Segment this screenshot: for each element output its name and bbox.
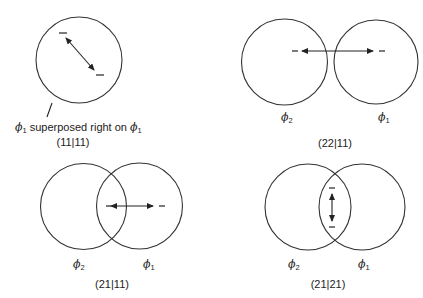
phi2-label: ϕ2 (288, 258, 300, 272)
notation-label: (22|11) (318, 137, 352, 149)
notation-label: (21|11) (95, 278, 129, 290)
orbital-overlap-diagram: ϕ1 superposed right on ϕ1 (11|11) ϕ2 ϕ1 … (0, 0, 423, 298)
notation-label: (11|11) (56, 136, 89, 148)
panel-21-21: ϕ2 ϕ1 (21|21) (265, 164, 405, 290)
notation-label: (21|21) (311, 278, 346, 290)
leader-line (47, 103, 52, 117)
orbital-circle-phi2 (265, 164, 351, 250)
orbital-circle-phi1 (36, 17, 122, 103)
panel-22-11: ϕ2 ϕ1 (22|11) (242, 19, 419, 149)
panel-21-11: ϕ2 ϕ1 (21|11) (41, 163, 183, 290)
panel-11-11: ϕ1 superposed right on ϕ1 (11|11) (15, 17, 142, 148)
phi1-label: ϕ1 (143, 258, 155, 272)
phi2-label: ϕ2 (281, 111, 293, 125)
caption: ϕ1 superposed right on ϕ1 (15, 121, 142, 135)
double-arrow (66, 38, 94, 70)
phi1-label: ϕ1 (358, 258, 370, 272)
phi1-label: ϕ1 (378, 111, 390, 125)
phi2-label: ϕ2 (73, 258, 85, 272)
orbital-circle-phi2 (242, 19, 328, 105)
orbital-circle-phi1 (334, 20, 418, 104)
